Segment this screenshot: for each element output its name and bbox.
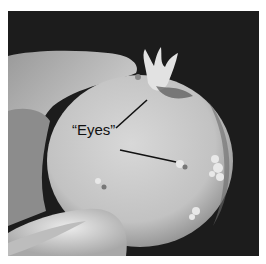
photo-scene (8, 11, 259, 256)
eyes-annotation-label: “Eyes” (72, 121, 115, 138)
potato-photo (8, 11, 259, 256)
